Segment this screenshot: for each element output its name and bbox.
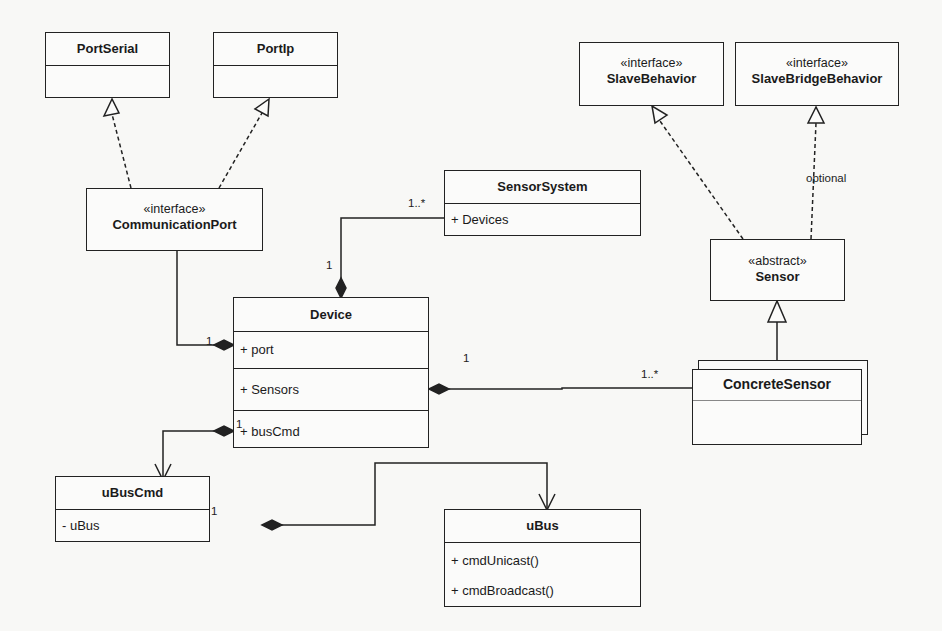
class-name: SensorSystem [497, 179, 587, 194]
generalization-arrow-icon [768, 301, 786, 322]
realization-arrow-icon [255, 99, 269, 116]
class-name: uBus [526, 518, 559, 533]
attribute-ubus: - uBus [56, 510, 209, 533]
class-name: uBusCmd [102, 485, 163, 500]
composition-sensors [449, 388, 692, 389]
class-concretesensor[interactable]: ConcreteSensor [692, 369, 862, 445]
composition-diamond-icon [336, 278, 346, 298]
attribute-port: + port [234, 332, 428, 368]
association-buscmd [163, 431, 214, 478]
stereotype: «interface» [580, 55, 723, 71]
multiplicity-label: 1..* [641, 368, 658, 380]
stereotype: «abstract» [711, 253, 844, 269]
realization-portip [219, 113, 262, 188]
composition-diamond-icon [214, 426, 234, 436]
class-name: SlaveBehavior [580, 71, 723, 87]
class-sensorsystem[interactable]: SensorSystem + Devices [444, 170, 641, 236]
class-ubus[interactable]: uBus + cmdUnicast() + cmdBroadcast() [444, 509, 641, 607]
method-cmdbroadcast: + cmdBroadcast() [445, 575, 640, 598]
class-name: ConcreteSensor [723, 376, 831, 392]
composition-diamond-icon [429, 384, 449, 394]
attribute-devices: + Devices [445, 204, 640, 227]
method-cmdunicast: + cmdUnicast() [445, 543, 640, 575]
class-name: Device [310, 307, 352, 322]
class-name: Sensor [711, 269, 844, 285]
class-sensor[interactable]: «abstract» Sensor [710, 239, 845, 301]
realization-arrow-icon [652, 106, 667, 123]
composition-port [177, 250, 214, 345]
class-slavebehavior[interactable]: «interface» SlaveBehavior [579, 42, 724, 106]
multiplicity-label: 1 [206, 335, 212, 347]
composition-sensorsystem-device [341, 218, 445, 280]
multiplicity-label: 1 [463, 352, 469, 364]
realization-slavebehavior [660, 121, 743, 239]
attribute-sensors: + Sensors [234, 369, 428, 410]
class-communicationport[interactable]: «interface» CommunicationPort [86, 188, 263, 251]
uml-class-diagram: PortSerial PortIp «interface» Communicat… [0, 0, 942, 631]
class-name: PortSerial [77, 41, 138, 56]
class-portip[interactable]: PortIp [213, 32, 338, 98]
stereotype: «interface» [736, 55, 898, 71]
class-device[interactable]: Device + port + Sensors + busCmd [233, 297, 429, 448]
multiplicity-label: 1 [326, 259, 332, 271]
multiplicity-label: 1 [211, 505, 217, 517]
class-portserial[interactable]: PortSerial [45, 32, 170, 98]
multiplicity-label: 1 [236, 418, 242, 430]
stereotype: «interface» [87, 201, 262, 217]
optional-label: optional [806, 172, 846, 184]
attribute-buscmd: + busCmd [234, 411, 428, 439]
class-name: CommunicationPort [87, 217, 262, 233]
multiplicity-label: 1..* [408, 197, 425, 209]
realization-arrow-icon [808, 107, 824, 123]
class-name: PortIp [257, 41, 295, 56]
class-slavebridgebehavior[interactable]: «interface» SlaveBridgeBehavior [735, 42, 899, 106]
class-name: SlaveBridgeBehavior [736, 71, 898, 87]
realization-portserial [112, 114, 131, 188]
composition-diamond-icon [214, 340, 234, 350]
realization-arrow-icon [104, 99, 119, 116]
composition-diamond-icon [262, 520, 282, 530]
class-ubuscmd[interactable]: uBusCmd - uBus [55, 476, 210, 542]
